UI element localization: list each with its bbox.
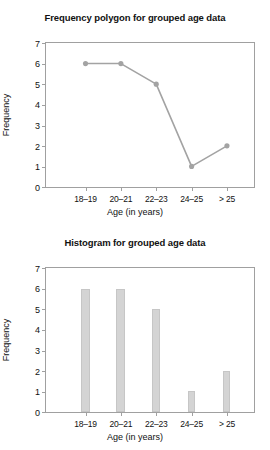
y-tick-7: 7 (35, 259, 46, 277)
y-axis-label: Frequency (1, 94, 11, 137)
y-tick-6: 6 (35, 280, 46, 298)
y-tick-0: 0 (35, 178, 46, 196)
y-tick-1: 1 (35, 382, 46, 400)
y-tick-mark (42, 289, 46, 290)
polygon-plot-area: 7 6 5 4 3 2 1 0 18–19 20–21 22–23 24–25 … (45, 42, 255, 188)
y-tick-mark (42, 371, 46, 372)
x-axis-label: Age (in years) (0, 432, 270, 442)
x-tick-mark-4 (227, 412, 228, 416)
x-tick-label-4: > 25 (219, 419, 235, 429)
histogram-figure: Histogram for grouped age data Frequency… (0, 225, 270, 450)
y-tick-mark (42, 309, 46, 310)
y-tick-7: 7 (35, 34, 46, 52)
y-tick-5: 5 (35, 300, 46, 318)
x-tick-mark-0 (86, 412, 87, 416)
y-tick-mark (42, 187, 46, 188)
x-axis-label: Age (in years) (0, 207, 270, 217)
x-tick-label-3: 24–25 (180, 194, 203, 204)
histogram-title: Histogram for grouped age data (0, 237, 270, 248)
x-tick-label-2: 22–23 (145, 194, 168, 204)
x-tick-mark-0 (86, 187, 87, 191)
y-axis-label: Frequency (1, 319, 11, 362)
y-tick-3: 3 (35, 341, 46, 359)
y-tick-2: 2 (35, 137, 46, 155)
histogram-bar (188, 391, 194, 412)
histogram-bar (116, 289, 125, 412)
x-tick-label-1: 20–21 (110, 194, 133, 204)
x-tick-mark-3 (192, 412, 193, 416)
x-tick-label-2: 22–23 (145, 419, 168, 429)
x-tick-mark-2 (156, 412, 157, 416)
y-tick-mark (42, 392, 46, 393)
x-tick-label-1: 20–21 (110, 419, 133, 429)
y-tick-2: 2 (35, 362, 46, 380)
y-tick-1: 1 (35, 157, 46, 175)
histogram-bar (223, 371, 230, 412)
y-tick-3: 3 (35, 116, 46, 134)
x-tick-mark-1 (121, 187, 122, 191)
y-tick-4: 4 (35, 96, 46, 114)
histogram-plot-area: 7 6 5 4 3 2 1 0 18–19 20–21 22–23 24–25 … (45, 267, 255, 413)
x-tick-mark-3 (192, 187, 193, 191)
y-tick-5: 5 (35, 75, 46, 93)
x-tick-label-4: > 25 (219, 194, 235, 204)
frequency-polygon-figure: Frequency polygon for grouped age data F… (0, 0, 270, 225)
y-tick-mark (42, 330, 46, 331)
histogram-bar (81, 289, 90, 412)
x-tick-mark-4 (227, 187, 228, 191)
y-tick-6: 6 (35, 55, 46, 73)
y-tick-mark (42, 268, 46, 269)
x-tick-mark-2 (156, 187, 157, 191)
y-tick-4: 4 (35, 321, 46, 339)
frequency-polygon-series (46, 43, 254, 187)
x-tick-label-3: 24–25 (180, 419, 203, 429)
y-tick-0: 0 (35, 403, 46, 421)
x-tick-label-0: 18–19 (74, 419, 97, 429)
x-tick-label-0: 18–19 (74, 194, 97, 204)
histogram-bar (152, 309, 160, 412)
page-title: Frequency polygon for grouped age data (0, 12, 270, 23)
x-tick-mark-1 (121, 412, 122, 416)
y-tick-mark (42, 351, 46, 352)
y-tick-mark (42, 412, 46, 413)
